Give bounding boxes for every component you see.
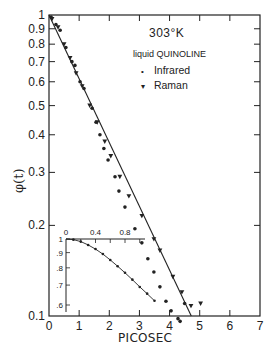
infrared-data-point bbox=[164, 299, 168, 303]
x-tick-label: 2 bbox=[106, 319, 113, 333]
infrared-data-point bbox=[106, 158, 110, 162]
infrared-data-point bbox=[117, 189, 121, 193]
inset-data-point bbox=[131, 278, 134, 281]
infrared-data-point bbox=[158, 285, 162, 289]
infrared-data-point bbox=[183, 302, 187, 306]
infrared-data-point bbox=[146, 257, 150, 261]
raman-data-point bbox=[170, 275, 175, 279]
y-tick-label: 0.6 bbox=[28, 75, 45, 89]
triangle-marker-icon: ▾ bbox=[141, 82, 151, 91]
inset-data-point bbox=[124, 271, 127, 274]
dot-marker-icon: • bbox=[141, 67, 151, 76]
y-tick-label: 0.5 bbox=[28, 99, 45, 113]
inset-data-point bbox=[87, 244, 90, 247]
legend-item-raman: ▾ Raman bbox=[141, 79, 188, 91]
infrared-data-point bbox=[152, 270, 156, 274]
raman-data-point bbox=[108, 154, 113, 158]
infrared-data-point bbox=[178, 320, 182, 324]
infrared-data-point bbox=[140, 241, 144, 245]
infrared-data-point bbox=[102, 147, 106, 151]
y-tick-label: 1 bbox=[38, 8, 45, 22]
infrared-data-point bbox=[113, 175, 117, 179]
raman-data-point bbox=[117, 175, 122, 179]
inset-x-tick-label: 0.8 bbox=[119, 228, 131, 237]
inset-data-point bbox=[116, 265, 119, 268]
raman-data-point bbox=[126, 194, 131, 198]
inset-data-point bbox=[94, 248, 97, 251]
raman-data-point bbox=[189, 304, 194, 308]
y-tick-label: 0.4 bbox=[28, 128, 45, 142]
y-tick-label: 0.3 bbox=[28, 165, 45, 179]
raman-data-point bbox=[198, 302, 203, 306]
infrared-data-point bbox=[133, 227, 137, 231]
infrared-data-point bbox=[73, 64, 77, 68]
x-tick-label: 6 bbox=[227, 319, 234, 333]
inset-y-tick-label: .6 bbox=[56, 301, 63, 310]
inset-x-tick-label: 0 bbox=[64, 228, 69, 237]
infrared-data-point bbox=[70, 60, 74, 64]
infrared-data-point bbox=[123, 205, 127, 209]
x-tick-label: 0 bbox=[46, 319, 53, 333]
infrared-series bbox=[49, 15, 186, 323]
legend-label: Raman bbox=[154, 79, 188, 91]
fit-line bbox=[49, 15, 191, 316]
infrared-data-point bbox=[90, 106, 94, 110]
y-tick-label: 0.8 bbox=[28, 37, 45, 51]
infrared-data-point bbox=[78, 80, 82, 84]
y-tick-label: 0.9 bbox=[28, 22, 45, 36]
raman-data-point bbox=[50, 17, 55, 21]
y-tick-label: 0.2 bbox=[28, 218, 45, 232]
inset-data-point bbox=[79, 240, 82, 243]
inset-data-point bbox=[102, 253, 105, 256]
y-tick-label: 0.1 bbox=[28, 309, 45, 323]
inset-y-tick-label: .7 bbox=[56, 281, 63, 290]
infrared-data-point bbox=[64, 46, 68, 50]
y-axis-label: φ(t) bbox=[11, 169, 26, 193]
infrared-data-point bbox=[58, 28, 62, 32]
x-tick-label: 7 bbox=[257, 319, 264, 333]
inset-data-point bbox=[146, 292, 149, 295]
inset-y-tick-label: .9 bbox=[56, 249, 63, 258]
inset-x-tick-label: 0.4 bbox=[90, 228, 102, 237]
legend-label: Infrared bbox=[154, 64, 190, 76]
y-tick-label: 0.7 bbox=[28, 55, 45, 69]
inset-data-point bbox=[153, 299, 156, 302]
infrared-data-point bbox=[169, 309, 173, 313]
x-tick-label: 5 bbox=[196, 319, 203, 333]
raman-data-point bbox=[68, 56, 73, 60]
legend-item-infrared: • Infrared bbox=[141, 64, 190, 76]
inset-data-point bbox=[72, 238, 75, 241]
inset-data-point bbox=[138, 286, 141, 289]
x-axis-ticks: 01234567 bbox=[46, 15, 264, 333]
legend-temperature: 303°K bbox=[149, 26, 184, 40]
x-tick-label: 1 bbox=[76, 319, 83, 333]
legend-subtitle: liquid QUINOLINE bbox=[133, 49, 206, 59]
inset-y-tick-label: .8 bbox=[56, 264, 63, 273]
inset-plot: 00.40.81.9.8.7.6 bbox=[56, 228, 155, 312]
infrared-data-point bbox=[98, 133, 102, 137]
inset-data-point bbox=[109, 259, 112, 262]
inset-y-tick-label: 1 bbox=[59, 235, 64, 244]
x-axis-label: PICOSEC bbox=[118, 331, 172, 345]
raman-data-point bbox=[102, 139, 107, 143]
